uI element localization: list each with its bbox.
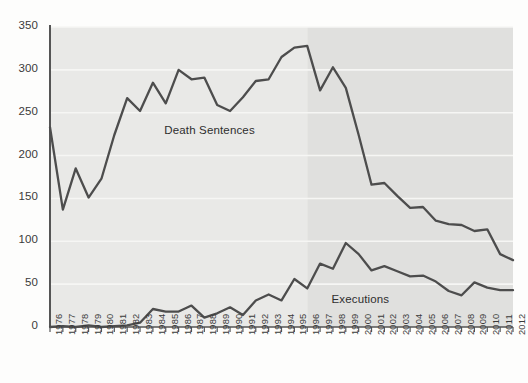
x-tick-label: 1987 xyxy=(195,314,205,335)
x-tick-label: 2003 xyxy=(401,314,411,335)
x-tick-label: 2007 xyxy=(453,314,463,335)
x-tick-label: 1995 xyxy=(298,314,308,335)
y-tick-label: 100 xyxy=(4,233,38,245)
x-tick-label: 1990 xyxy=(234,314,244,335)
x-tick-label: 2002 xyxy=(388,314,398,335)
x-tick-label: 2004 xyxy=(414,314,424,335)
y-tick-label: 300 xyxy=(4,62,38,74)
x-tick-label: 1999 xyxy=(350,314,360,335)
x-tick-label: 1991 xyxy=(247,314,257,335)
y-tick-label: 0 xyxy=(4,319,38,331)
x-tick-label: 2011 xyxy=(504,314,514,335)
x-tick-label: 1986 xyxy=(183,314,193,335)
x-tick-label: 2001 xyxy=(376,314,386,335)
x-tick-label: 2000 xyxy=(363,314,373,335)
x-tick-label: 1981 xyxy=(118,314,128,335)
x-tick-label: 2009 xyxy=(478,314,488,335)
x-tick-label: 2010 xyxy=(491,314,501,335)
series-annotation-label: Death Sentences xyxy=(164,124,254,136)
x-tick-label: 1993 xyxy=(273,314,283,335)
x-tick-label: 1985 xyxy=(170,314,180,335)
x-tick-label: 1992 xyxy=(260,314,270,335)
x-tick-label: 2005 xyxy=(427,314,437,335)
x-tick-label: 1977 xyxy=(67,314,77,335)
x-tick-label: 1996 xyxy=(311,314,321,335)
x-tick-label: 1997 xyxy=(324,314,334,335)
x-tick-label: 1988 xyxy=(208,314,218,335)
plot-background-group xyxy=(50,27,513,327)
x-tick-label: 1978 xyxy=(80,314,90,335)
x-tick-label: 2006 xyxy=(440,314,450,335)
x-tick-label: 1983 xyxy=(144,314,154,335)
x-tick-label: 1998 xyxy=(337,314,347,335)
series-annotation-label: Executions xyxy=(332,293,390,305)
y-tick-label: 150 xyxy=(4,190,38,202)
x-tick-label: 1989 xyxy=(221,314,231,335)
y-tick-label: 50 xyxy=(4,276,38,288)
plot-background-shaded-band xyxy=(307,27,513,327)
x-tick-label: 1979 xyxy=(93,314,103,335)
x-tick-label: 2008 xyxy=(466,314,476,335)
x-tick-label: 1984 xyxy=(157,314,167,335)
x-tick-label: 1976 xyxy=(54,314,64,335)
x-tick-label: 1994 xyxy=(286,314,296,335)
x-tick-label: 1980 xyxy=(105,314,115,335)
y-tick-label: 200 xyxy=(4,148,38,160)
x-tick-label: 2012 xyxy=(517,314,527,335)
x-tick-label: 1982 xyxy=(131,314,141,335)
chart-container: 050100150200250300350 197619771978197919… xyxy=(0,0,528,383)
y-tick-label: 350 xyxy=(4,19,38,31)
y-tick-label: 250 xyxy=(4,105,38,117)
